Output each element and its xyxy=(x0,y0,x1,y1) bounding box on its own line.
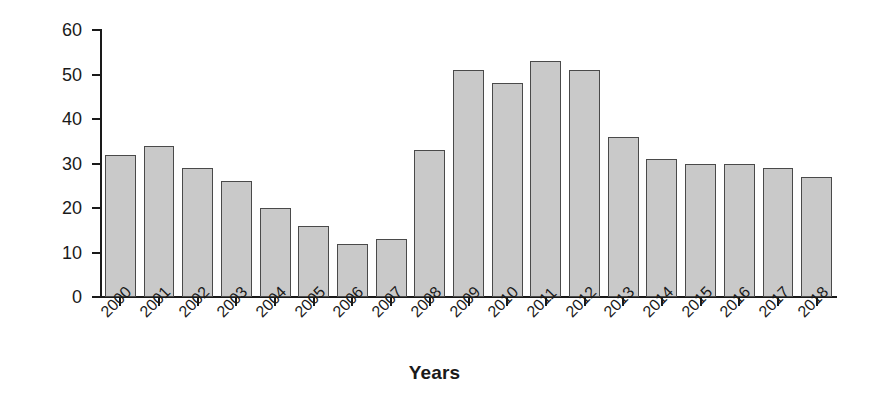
y-axis-tick-label: 50 xyxy=(22,66,82,84)
y-axis-tick-label: 20 xyxy=(22,199,82,217)
bar-2003 xyxy=(221,181,252,297)
y-axis-tick-label: 60 xyxy=(22,21,82,39)
bar-2016 xyxy=(724,164,755,298)
bar-2002 xyxy=(182,168,213,297)
bar-2010 xyxy=(492,83,523,297)
y-axis-tick xyxy=(92,29,101,31)
y-axis-tick xyxy=(92,118,101,120)
bar-2008 xyxy=(414,150,445,297)
y-axis-tick xyxy=(92,252,101,254)
bar-2001 xyxy=(144,146,175,297)
plot-area xyxy=(101,30,836,297)
y-axis-tick xyxy=(92,296,101,298)
bar-2009 xyxy=(453,70,484,297)
y-axis-tick-label: 0 xyxy=(22,288,82,306)
bar-2013 xyxy=(608,137,639,297)
bar-chart-figure: Percentage 0102030405060 200020012002200… xyxy=(0,0,869,400)
bar-2000 xyxy=(105,155,136,297)
bar-2018 xyxy=(801,177,832,297)
y-axis-tick xyxy=(92,74,101,76)
bar-2014 xyxy=(646,159,677,297)
y-axis-tick-label: 30 xyxy=(22,155,82,173)
bar-2011 xyxy=(530,61,561,297)
y-axis-tick xyxy=(92,163,101,165)
y-axis-tick-label: 40 xyxy=(22,110,82,128)
bar-2017 xyxy=(763,168,794,297)
bar-2015 xyxy=(685,164,716,298)
y-axis-tick xyxy=(92,207,101,209)
bar-2012 xyxy=(569,70,600,297)
y-axis-tick-label: 10 xyxy=(22,244,82,262)
x-axis-title: Years xyxy=(0,362,869,384)
